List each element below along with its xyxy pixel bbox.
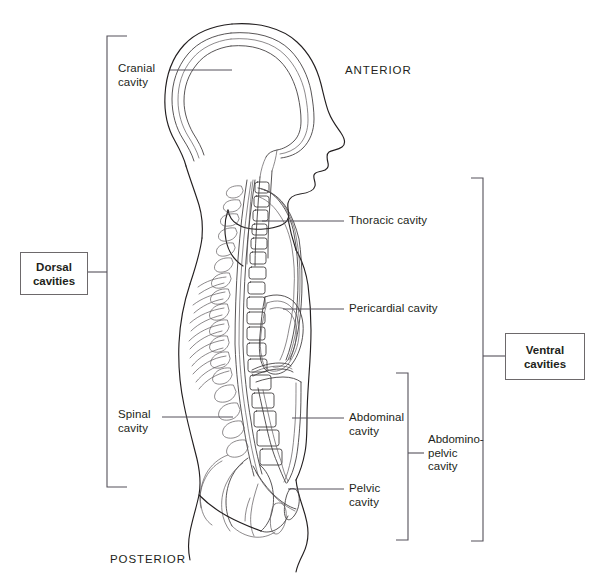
- cranial-cavity-region: [172, 33, 314, 177]
- callout-cranial-cavity: Cranial cavity: [118, 62, 155, 89]
- callout-abdominal-cavity: Abdominal cavity: [349, 411, 404, 438]
- orientation-label-anterior: ANTERIOR: [345, 64, 412, 76]
- ventral-bracket: [471, 178, 483, 541]
- vertebral-column: [189, 180, 282, 476]
- callout-thoracic-cavity: Thoracic cavity: [349, 214, 427, 228]
- callout-spinal-cavity: Spinal cavity: [118, 408, 151, 435]
- bracket-label-abdominopelvic-cavity: Abdomino- pelvic cavity: [428, 433, 484, 474]
- pelvic-cavity-region: [199, 455, 299, 537]
- callout-pelvic-cavity: Pelvic cavity: [349, 482, 380, 509]
- group-box-ventral-cavities: Ventral cavities: [505, 333, 585, 380]
- body-cavities-diagram: ANTERIOR POSTERIOR Cranial cavity Thorac…: [0, 0, 600, 588]
- abdominopelvic-bracket: [396, 373, 408, 540]
- orientation-label-posterior: POSTERIOR: [110, 553, 186, 565]
- group-box-dorsal-cavities: Dorsal cavities: [20, 252, 88, 295]
- anatomical-figure: [0, 0, 600, 588]
- torso-outline: [179, 250, 311, 572]
- head-profile-group: [165, 24, 345, 230]
- callout-pericardial-cavity: Pericardial cavity: [349, 302, 438, 316]
